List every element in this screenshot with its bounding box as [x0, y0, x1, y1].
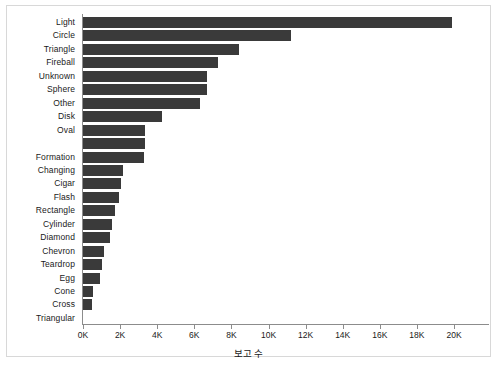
bar [83, 30, 291, 41]
bar-category-label: Cross [7, 298, 75, 311]
bar [83, 165, 123, 176]
bar-row: Chevron [7, 245, 490, 258]
bar-row: Oval [7, 124, 490, 137]
bar [83, 44, 239, 55]
bar-category-label: Cylinder [7, 218, 75, 231]
bar-category-label: Unknown [7, 70, 75, 83]
bar-category-label: Diamond [7, 231, 75, 244]
bar-row: Circle [7, 29, 490, 42]
bar-row: Sphere [7, 83, 490, 96]
bar-category-label: Chevron [7, 245, 75, 258]
bar-category-label: Cone [7, 285, 75, 298]
x-axis-tick [306, 325, 307, 329]
bar [83, 71, 207, 82]
bar [83, 192, 119, 203]
bar-row: Egg [7, 272, 490, 285]
bar [83, 84, 207, 95]
bar-row: Changing [7, 164, 490, 177]
bar [83, 111, 162, 122]
x-axis-tick-label: 10K [261, 330, 276, 340]
bar-category-label: Flash [7, 191, 75, 204]
bar-category-label: Changing [7, 164, 75, 177]
bar-row: Light [7, 16, 490, 29]
bar-category-label: Circle [7, 29, 75, 42]
bar-row: Teardrop [7, 258, 490, 271]
x-axis-tick [343, 325, 344, 329]
bar [83, 138, 145, 149]
x-axis-tick [454, 325, 455, 329]
bar-category-label: Rectangle [7, 204, 75, 217]
x-axis-tick-label: 18K [409, 330, 424, 340]
bar [83, 152, 144, 163]
bar [83, 205, 115, 216]
bar-row: Disk [7, 110, 490, 123]
x-axis-line [83, 324, 489, 325]
x-axis-tick [231, 325, 232, 329]
x-axis-tick [380, 325, 381, 329]
bar [83, 57, 218, 68]
x-axis-tick-label: 0K [78, 330, 88, 340]
bar [83, 286, 93, 297]
bar-category-label: Triangular [7, 312, 75, 325]
bar-category-label: Other [7, 97, 75, 110]
x-axis-tick-label: 8K [226, 330, 236, 340]
x-axis-tick-label: 14K [335, 330, 350, 340]
bar [83, 299, 92, 310]
bar-row: Cross [7, 298, 490, 311]
bar-category-label: Cigar [7, 177, 75, 190]
bar [83, 178, 121, 189]
bar-row: Other [7, 97, 490, 110]
bar-row: Unknown [7, 70, 490, 83]
x-axis-tick-label: 4K [152, 330, 162, 340]
bar [83, 219, 112, 230]
bar-row: Triangular [7, 312, 490, 325]
x-axis-tick [417, 325, 418, 329]
bar-category-label: Formation [7, 151, 75, 164]
bar [83, 246, 104, 257]
bar-category-label: Oval [7, 124, 75, 137]
x-axis-tick-label: 12K [298, 330, 313, 340]
y-axis-line [82, 14, 83, 325]
bar-chart-plot: LightCircleTriangleFireballUnknownSphere… [7, 6, 490, 356]
bar-category-label: Fireball [7, 56, 75, 69]
bar [83, 98, 200, 109]
bar [83, 17, 452, 28]
x-axis-tick [269, 325, 270, 329]
bar [83, 259, 102, 270]
bar-row: Cigar [7, 177, 490, 190]
bar-category-label: Teardrop [7, 258, 75, 271]
bar-row: Formation [7, 151, 490, 164]
bar-category-label: Disk [7, 110, 75, 123]
x-axis-tick-label: 16K [372, 330, 387, 340]
x-axis-tick [157, 325, 158, 329]
chart-frame: LightCircleTriangleFireballUnknownSphere… [6, 5, 491, 357]
bar-row: Flash [7, 191, 490, 204]
bar-row: Triangle [7, 43, 490, 56]
bar-row: Cone [7, 285, 490, 298]
bar-category-label: Light [7, 16, 75, 29]
x-axis-tick-label: 6K [189, 330, 199, 340]
bar-row: Diamond [7, 231, 490, 244]
bar [83, 273, 100, 284]
x-axis-tick [194, 325, 195, 329]
bar [83, 125, 145, 136]
bar [83, 232, 110, 243]
bar-category-label: Triangle [7, 43, 75, 56]
x-axis-title: 보고 수 [7, 346, 490, 360]
bar-category-label: Sphere [7, 83, 75, 96]
x-axis-tick [83, 325, 84, 329]
bar-category-label: Egg [7, 272, 75, 285]
bar-row: Rectangle [7, 204, 490, 217]
bar-row: Cylinder [7, 218, 490, 231]
x-axis-tick-label: 2K [115, 330, 125, 340]
x-axis-tick-label: 20K [446, 330, 461, 340]
x-axis-tick [120, 325, 121, 329]
bar-row: Fireball [7, 56, 490, 69]
bar-row [7, 137, 490, 150]
